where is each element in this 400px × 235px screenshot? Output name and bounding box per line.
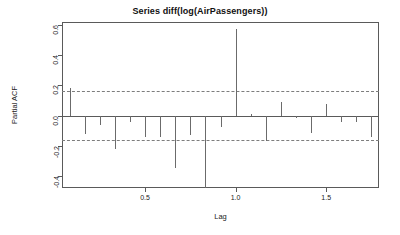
pacf-spike (130, 116, 131, 122)
x-axis-tick-label: 0.5 (140, 194, 150, 201)
pacf-spike (70, 88, 71, 116)
y-axis-tick-label: -0.2 (53, 146, 60, 158)
pacf-spike (296, 116, 297, 118)
x-axis-tick-label: 1.5 (321, 194, 331, 201)
pacf-spike (175, 116, 176, 168)
pacf-spike (251, 114, 252, 116)
pacf-spike (160, 116, 161, 137)
y-axis-tick-label: 0.4 (53, 55, 60, 65)
pacf-spike (371, 116, 372, 138)
upper-confidence-band (62, 91, 379, 92)
pacf-spike (85, 116, 86, 135)
plot-area: 0.60.40.20.0-0.2-0.40.51.01.5 (62, 22, 379, 188)
pacf-spike (341, 116, 342, 122)
y-axis-tick-label: -0.4 (53, 176, 60, 188)
pacf-spike (100, 116, 101, 126)
pacf-spike (221, 116, 222, 127)
x-axis-tick (145, 188, 146, 192)
y-axis-tick-label: 0.2 (53, 85, 60, 95)
pacf-spike (311, 116, 312, 133)
pacf-spike (266, 116, 267, 142)
lower-confidence-band (62, 140, 379, 141)
pacf-spike (115, 116, 116, 149)
pacf-spike (205, 116, 206, 188)
x-axis-tick (236, 188, 237, 192)
pacf-spike (326, 104, 327, 115)
pacf-spike (236, 29, 237, 115)
pacf-plot-window: Series diff(log(AirPassengers)) Partial … (0, 0, 400, 235)
pacf-spike (281, 102, 282, 115)
pacf-spike (356, 116, 357, 123)
pacf-spike (145, 116, 146, 138)
pacf-spike (190, 116, 191, 136)
x-axis-title: Lag (62, 212, 379, 221)
y-axis-title: Partial ACF (10, 86, 19, 124)
page-title: Series diff(log(AirPassengers)) (0, 6, 400, 16)
x-axis-tick (326, 188, 327, 192)
spike-canvas (62, 22, 379, 188)
y-axis-tick-label: 0.0 (53, 116, 60, 126)
y-axis-tick-label: 0.6 (53, 25, 60, 35)
x-axis-tick-label: 1.0 (231, 194, 241, 201)
